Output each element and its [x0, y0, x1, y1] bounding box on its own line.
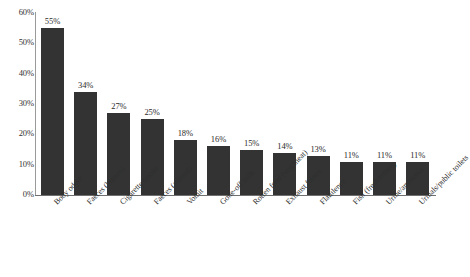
bar-value-label: 11%: [401, 151, 434, 160]
bar-slot: 34%: [69, 0, 102, 196]
bar-value-label: 11%: [335, 151, 368, 160]
bar-slot: 55%: [36, 0, 69, 196]
bar-slot: 13%: [302, 0, 335, 196]
bar-value-label: 34%: [69, 81, 102, 90]
y-axis-tick-40: 40%: [1, 69, 34, 78]
bar-slot: 16%: [202, 0, 235, 196]
bar: [41, 28, 64, 195]
x-label-slot: Cigarette smoke: [102, 198, 135, 277]
bar: [207, 146, 230, 195]
y-axis-tick-60: 60%: [1, 8, 34, 17]
bar-slot: 15%: [235, 0, 268, 196]
bar-value-label: 11%: [368, 151, 401, 160]
bar-value-label: 55%: [36, 17, 69, 26]
x-axis-category-labels: Body odourFaeces (human)Cigarette smokeF…: [36, 198, 436, 277]
x-label-slot: Gone-off milk: [202, 198, 235, 277]
x-label-slot: Fish (fresh/rotten): [335, 198, 368, 277]
bar-value-label: 14%: [268, 142, 301, 151]
x-label-slot: Exhaust fumes: [268, 198, 301, 277]
y-axis-tick-0: 0%: [1, 190, 34, 199]
y-axis-tick-10: 10%: [1, 160, 34, 169]
bar-value-label: 18%: [169, 129, 202, 138]
x-label-slot: Faeces (animal): [136, 198, 169, 277]
x-label-slot: Body odour: [36, 198, 69, 277]
y-axis-tick-50: 50%: [1, 38, 34, 47]
bar-value-label: 15%: [235, 139, 268, 148]
bar-series: 55%34%27%25%18%16%15%14%13%11%11%11%: [36, 0, 436, 196]
x-label-slot: Urinals/public toilets: [401, 198, 434, 277]
x-label-slot: Rotten food (veg/meat): [235, 198, 268, 277]
x-label-slot: Faeces (human): [69, 198, 102, 277]
y-axis-tick-labels: 0%10%20%30%40%50%60%: [0, 0, 34, 277]
y-axis-tick-30: 30%: [1, 99, 34, 108]
bar-slot: 11%: [335, 0, 368, 196]
x-label-slot: Vomit: [169, 198, 202, 277]
x-label-slot: Urine/ammonia: [368, 198, 401, 277]
y-axis-tick-20: 20%: [1, 129, 34, 138]
bar-value-label: 27%: [102, 102, 135, 111]
bar-value-label: 25%: [136, 108, 169, 117]
x-label-slot: Flatulence: [302, 198, 335, 277]
bar-value-label: 16%: [202, 135, 235, 144]
